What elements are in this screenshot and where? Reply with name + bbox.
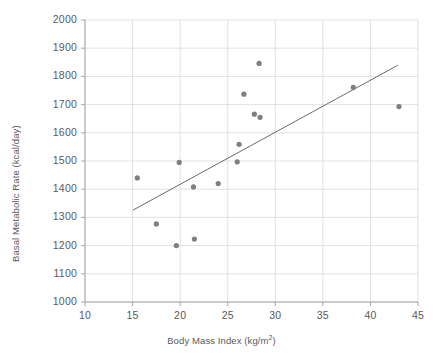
y-tick-label: 1300 (39, 210, 77, 222)
y-tick-label: 1900 (39, 41, 77, 53)
y-tick-label: 1600 (39, 126, 77, 138)
x-tick-label: 25 (213, 309, 243, 321)
x-tick-label: 20 (165, 309, 195, 321)
trend-line (133, 65, 398, 210)
y-tick-label: 2000 (39, 13, 77, 25)
y-tick-label: 1700 (39, 98, 77, 110)
y-tick-label: 1100 (39, 267, 77, 279)
x-tick-label: 40 (355, 309, 385, 321)
data-points (135, 61, 402, 248)
grid-lines (85, 20, 418, 302)
scatter-chart: Basal Metabolic Rate (kcal/day) Body Mas… (0, 0, 443, 358)
x-tick-label: 10 (70, 309, 100, 321)
y-tick-label: 1500 (39, 154, 77, 166)
axis-lines (81, 20, 418, 306)
y-tick-label: 1000 (39, 295, 77, 307)
x-tick-label: 45 (403, 309, 433, 321)
x-tick-label: 15 (118, 309, 148, 321)
y-tick-label: 1800 (39, 69, 77, 81)
x-tick-label: 30 (260, 309, 290, 321)
x-tick-label: 35 (308, 309, 338, 321)
y-tick-label: 1400 (39, 182, 77, 194)
y-tick-label: 1200 (39, 239, 77, 251)
